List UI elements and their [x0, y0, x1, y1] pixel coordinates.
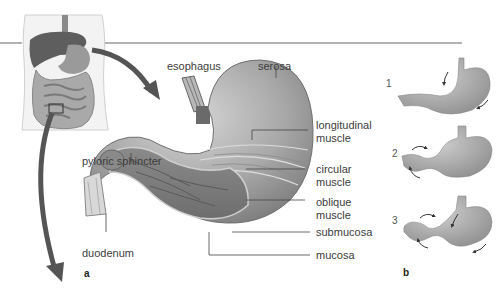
- torso-figure: [22, 15, 108, 130]
- panel-a-letter: a: [84, 268, 90, 279]
- step-2-number: 2: [392, 148, 398, 159]
- step-1-number: 1: [386, 78, 392, 89]
- peristalsis-step-3: [404, 196, 492, 252]
- label-serosa: serosa: [258, 60, 291, 72]
- label-mucosa: mucosa: [316, 249, 355, 261]
- label-circular-muscle-2: muscle: [316, 176, 351, 188]
- label-pyloric-sphincter: pyloric sphincter: [82, 155, 161, 167]
- label-oblique-muscle-1: oblique: [316, 196, 351, 208]
- label-submucosa: submucosa: [316, 226, 372, 238]
- arrow-to-small-intestine: [41, 113, 55, 270]
- label-esophagus: esophagus: [167, 60, 221, 72]
- stomach-cross-section: [84, 60, 313, 223]
- diagram-artwork: [0, 0, 500, 293]
- label-longitudinal-muscle-1: longitudinal: [316, 119, 372, 131]
- label-duodenum: duodenum: [82, 247, 134, 259]
- peristalsis-step-2: [402, 126, 492, 178]
- label-circular-muscle-1: circular: [316, 163, 351, 175]
- panel-b-letter: b: [403, 267, 409, 278]
- step-3-number: 3: [392, 215, 398, 226]
- label-longitudinal-muscle-2: muscle: [316, 132, 351, 144]
- label-oblique-muscle-2: muscle: [316, 209, 351, 221]
- peristalsis-step-1: [398, 58, 490, 114]
